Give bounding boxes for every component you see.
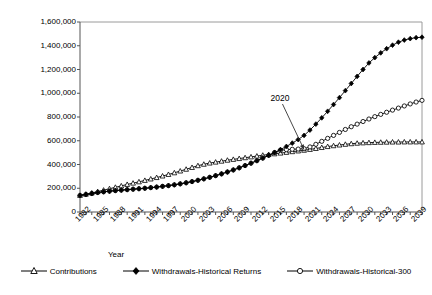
data-point xyxy=(384,46,388,51)
y-axis-tick-label: 600,000 xyxy=(20,137,76,145)
y-axis-tick-label: 1,400,000 xyxy=(20,42,76,50)
data-point xyxy=(408,36,412,41)
series-line-2 xyxy=(80,100,422,195)
legend-label-withdrawals-historical-returns: Withdrawals-Historical Returns xyxy=(152,267,261,276)
data-point xyxy=(355,122,359,126)
y-axis-tick-label: 1,000,000 xyxy=(20,89,76,97)
legend-label-withdrawals-historical-300: Withdrawals-Historical-300 xyxy=(316,267,411,276)
data-point xyxy=(367,117,371,121)
y-axis-tick-label: 800,000 xyxy=(20,113,76,121)
legend-item-withdrawals-historical-returns[interactable]: Withdrawals-Historical Returns xyxy=(123,266,261,276)
data-point xyxy=(379,112,383,116)
y-axis-title: Millions of Year 2000 Dollars xyxy=(0,0,13,28)
legend-label-contributions: Contributions xyxy=(50,267,97,276)
data-point xyxy=(402,104,406,108)
data-point xyxy=(326,136,330,140)
data-point xyxy=(290,141,294,146)
x-axis-title: Year xyxy=(108,250,124,259)
y-axis-tick-label: 1,600,000 xyxy=(20,18,76,26)
data-point xyxy=(308,145,312,149)
y-axis-tick-label: 400,000 xyxy=(20,161,76,169)
series-2 xyxy=(78,98,424,197)
data-point xyxy=(320,139,324,143)
data-point xyxy=(331,133,335,137)
data-point xyxy=(390,43,394,48)
data-point xyxy=(420,35,424,40)
data-point xyxy=(343,127,347,131)
chart-legend: Contributions Withdrawals-Historical Ret… xyxy=(0,266,432,276)
data-point xyxy=(290,147,294,151)
y-axis-tick-labels: 1,600,0001,400,0001,200,0001,000,000800,… xyxy=(18,0,76,220)
data-point xyxy=(361,119,365,123)
data-point xyxy=(337,130,341,134)
filled-diamond-key-icon xyxy=(123,266,149,276)
open-circle-key-icon xyxy=(287,266,313,276)
annotation-2020: 2020 xyxy=(270,93,289,103)
series-1 xyxy=(78,35,424,198)
y-axis-tick-label: 0 xyxy=(20,208,76,216)
open-triangle-key-icon xyxy=(21,266,47,276)
series-0 xyxy=(78,139,425,197)
data-point xyxy=(414,100,418,104)
data-point xyxy=(414,35,418,40)
chart-container: Millions of Year 2000 Dollars 1,600,0001… xyxy=(0,0,432,295)
data-point xyxy=(373,115,377,119)
series-line-1 xyxy=(80,37,422,195)
data-point xyxy=(402,38,406,43)
data-point xyxy=(396,106,400,110)
data-point xyxy=(296,147,300,151)
data-point xyxy=(396,40,400,45)
legend-item-contributions[interactable]: Contributions xyxy=(21,266,97,276)
data-point xyxy=(314,142,318,146)
data-point xyxy=(385,110,389,114)
data-point xyxy=(420,98,424,102)
series-line-0 xyxy=(80,142,422,195)
data-point xyxy=(349,125,353,129)
data-point xyxy=(408,102,412,106)
y-axis-tick-label: 1,200,000 xyxy=(20,66,76,74)
y-axis-tick-label: 200,000 xyxy=(20,184,76,192)
data-point xyxy=(390,108,394,112)
legend-item-withdrawals-historical-300[interactable]: Withdrawals-Historical-300 xyxy=(287,266,411,276)
